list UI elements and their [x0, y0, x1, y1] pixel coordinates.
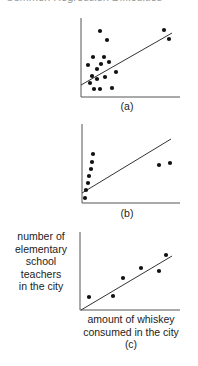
y-label-line: in the city — [4, 280, 78, 293]
data-point — [99, 62, 103, 66]
data-point — [95, 67, 99, 71]
data-point — [88, 81, 92, 85]
data-point — [98, 29, 102, 33]
data-point — [168, 161, 172, 165]
data-point — [139, 266, 143, 270]
data-point — [111, 294, 115, 298]
y-label-line: teachers — [4, 268, 78, 281]
x-label-line: amount of whiskey — [76, 313, 186, 326]
data-point — [90, 160, 94, 164]
data-point — [157, 163, 161, 167]
data-point — [86, 63, 90, 67]
data-point — [157, 269, 161, 273]
data-point — [162, 28, 166, 32]
axes — [80, 232, 180, 310]
data-point — [89, 167, 93, 171]
regression-line — [81, 256, 172, 310]
panel-label-b: (b) — [112, 207, 142, 220]
data-point — [91, 55, 95, 59]
data-point — [87, 295, 91, 299]
panel-label-c: (c) — [76, 338, 186, 351]
data-point — [92, 87, 96, 91]
regression-scatter-plots — [0, 0, 198, 366]
data-point — [102, 55, 106, 59]
data-point — [105, 38, 109, 42]
regression-line — [81, 33, 172, 85]
data-point — [84, 188, 88, 192]
data-point — [95, 77, 99, 81]
x-label-line: consumed in the city — [76, 326, 186, 339]
data-point — [167, 37, 171, 41]
data-point — [114, 70, 118, 74]
y-label-line: elementary — [4, 243, 78, 256]
data-point — [98, 87, 102, 91]
data-point — [121, 276, 125, 280]
chart-c-y-axis-label: number of elementary school teachers in … — [4, 230, 78, 293]
data-point — [107, 60, 111, 64]
chart-c-x-axis-label: amount of whiskey consumed in the city (… — [76, 313, 186, 351]
data-point — [83, 196, 87, 200]
y-label-line: number of — [4, 230, 78, 243]
y-label-line: school — [4, 255, 78, 268]
data-point — [110, 86, 114, 90]
data-point — [87, 174, 91, 178]
data-point — [90, 74, 94, 78]
data-point — [86, 181, 90, 185]
panel-label-a: (a) — [112, 100, 142, 113]
data-point — [91, 152, 95, 156]
data-point — [164, 253, 168, 257]
data-point — [103, 75, 107, 79]
